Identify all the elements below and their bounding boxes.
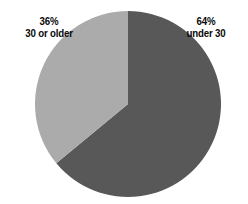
pie-label-under-30-category: under 30 <box>168 27 244 39</box>
pie-label-30-or-older: 36% 30 or older <box>11 15 87 39</box>
pie-label-30-or-older-percent: 36% <box>11 15 87 27</box>
pie-chart: 36% 30 or older 64% under 30 <box>0 0 248 204</box>
pie-label-30-or-older-category: 30 or older <box>11 27 87 39</box>
pie-label-under-30-percent: 64% <box>168 15 244 27</box>
pie-label-under-30: 64% under 30 <box>168 15 244 39</box>
